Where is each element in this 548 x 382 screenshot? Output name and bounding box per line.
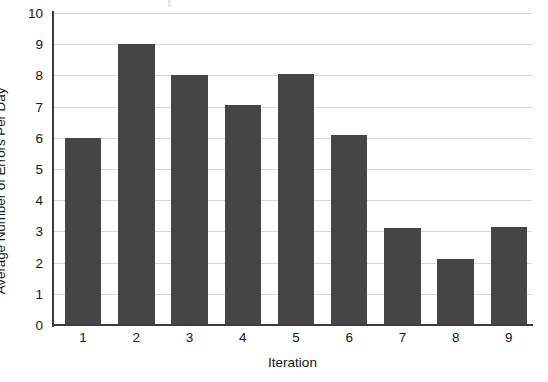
bar	[331, 135, 368, 325]
plot-area	[53, 13, 532, 325]
bar-chart: Average Number of Errors Per Day 0123456…	[0, 0, 548, 382]
y-axis-line	[52, 11, 54, 327]
bar	[384, 228, 421, 325]
x-axis-line	[53, 324, 533, 326]
bar	[65, 138, 102, 325]
y-axis-tick-label: 6	[35, 130, 43, 145]
y-axis-tick-label: 10	[28, 6, 43, 21]
x-axis-tick-label: 4	[239, 330, 247, 345]
bar	[225, 105, 262, 325]
y-axis-tick-label: 3	[35, 224, 43, 239]
bar	[171, 75, 208, 325]
x-axis-tick-label: 5	[292, 330, 300, 345]
x-axis-tick-label: 3	[186, 330, 194, 345]
y-axis-tick-label: 8	[35, 68, 43, 83]
x-axis-tick-label: 7	[399, 330, 407, 345]
x-axis-tick-labels: 123456789	[53, 330, 532, 352]
bar	[491, 227, 528, 325]
x-axis-tick-label: 2	[133, 330, 141, 345]
bar	[278, 74, 315, 325]
y-axis-tick-label: 0	[35, 318, 43, 333]
y-axis-tick-labels: 012345678910	[0, 0, 50, 382]
y-axis-tick-label: 9	[35, 37, 43, 52]
y-axis-tick-label: 1	[35, 286, 43, 301]
y-axis-tick-label: 7	[35, 99, 43, 114]
x-axis-tick-label: 6	[345, 330, 353, 345]
y-axis-tick-label: 2	[35, 255, 43, 270]
page-scan-artifact	[168, 0, 171, 7]
x-axis-tick-label: 1	[79, 330, 87, 345]
x-axis-title: Iteration	[53, 355, 532, 370]
bar	[437, 259, 474, 325]
bar	[118, 44, 155, 325]
bars-group	[53, 13, 532, 325]
x-axis-tick-label: 9	[505, 330, 513, 345]
y-axis-tick-label: 5	[35, 162, 43, 177]
y-axis-tick-label: 4	[35, 193, 43, 208]
x-axis-tick-label: 8	[452, 330, 460, 345]
